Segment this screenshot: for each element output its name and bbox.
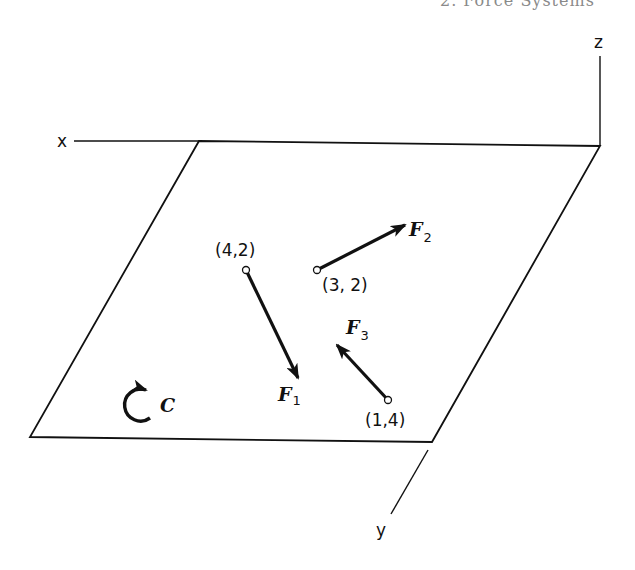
y-axis-label: y — [376, 520, 386, 540]
vector-label-f3: F3 — [345, 316, 369, 343]
application-point-f3 — [385, 397, 392, 404]
application-point-f2 — [314, 267, 321, 274]
force-f3: (1,4) F3 — [337, 316, 405, 430]
z-axis: z — [594, 32, 603, 146]
force-f1: (4,2) F1 — [215, 240, 301, 408]
couple-c: C — [125, 389, 176, 421]
y-axis: y — [376, 450, 428, 540]
coord-label-f3: (1,4) — [365, 410, 405, 430]
force-system-diagram: x z y (4,2) F1 (3, 2) F2 (1,4) F3 C — [0, 0, 635, 570]
x-axis-label: x — [57, 131, 67, 151]
coord-label-f1: (4,2) — [215, 240, 255, 260]
force-f2: (3, 2) F2 — [314, 218, 432, 295]
vector-label-f2: F2 — [408, 218, 432, 245]
vector-label-f1: F1 — [277, 383, 301, 408]
z-axis-label: z — [594, 32, 603, 52]
x-axis: x — [57, 131, 199, 151]
plane-parallelogram — [30, 141, 600, 442]
application-point-f1 — [243, 267, 250, 274]
couple-arrow-icon — [125, 389, 150, 421]
coord-label-f2: (3, 2) — [322, 275, 368, 295]
couple-label: C — [160, 394, 175, 416]
